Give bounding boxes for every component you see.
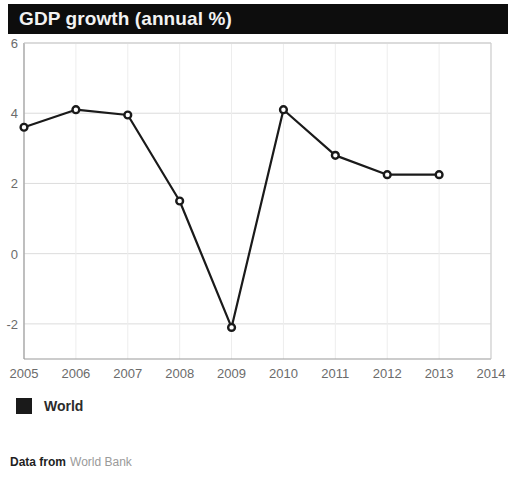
data-point-marker <box>384 171 391 178</box>
x-axis-tick-label: 2006 <box>61 366 90 381</box>
x-axis-tick-label: 2009 <box>217 366 246 381</box>
page-title: GDP growth (annual %) <box>19 8 232 30</box>
data-point-marker <box>228 324 235 331</box>
chart-title-bar: GDP growth (annual %) <box>8 4 508 34</box>
data-point-marker <box>124 112 131 119</box>
data-source-label: Data from <box>10 455 66 469</box>
data-point-marker <box>280 106 287 113</box>
x-axis-tick-label: 2010 <box>269 366 298 381</box>
data-point-marker <box>332 152 339 159</box>
x-axis-tick-label: 2011 <box>321 366 349 381</box>
data-point-marker <box>21 124 28 131</box>
x-axis-tick-label: 2007 <box>113 366 142 381</box>
x-axis-tick-labels: 2005200620072008200920102011201220132014 <box>10 366 506 381</box>
x-axis-tick-label: 2013 <box>425 366 454 381</box>
y-axis-tick-label: 2 <box>11 176 18 191</box>
x-axis-tick-label: 2014 <box>477 366 506 381</box>
y-axis-tick-label: 0 <box>11 247 18 262</box>
chart-container: 6420-2 200520062007200820092010201120122… <box>0 34 508 384</box>
x-axis-tick-label: 2005 <box>10 366 39 381</box>
legend-swatch-world <box>16 398 32 414</box>
data-source-name: World Bank <box>70 455 132 469</box>
x-axis-tick-label: 2012 <box>373 366 402 381</box>
line-chart: 6420-2 200520062007200820092010201120122… <box>0 34 508 384</box>
axis-frame <box>24 43 491 359</box>
data-point-marker <box>436 171 443 178</box>
data-point-marker <box>72 106 79 113</box>
x-axis-tick-label: 2008 <box>165 366 194 381</box>
chart-legend: World <box>16 398 83 414</box>
gridlines <box>24 43 491 359</box>
data-source-footer: Data fromWorld Bank <box>10 455 132 469</box>
data-point-marker <box>176 198 183 205</box>
legend-label-world: World <box>44 398 83 414</box>
y-axis-tick-labels: 6420-2 <box>6 36 18 332</box>
y-axis-tick-label: -2 <box>6 317 18 332</box>
y-axis-tick-label: 4 <box>11 106 18 121</box>
y-axis-tick-label: 6 <box>11 36 18 51</box>
